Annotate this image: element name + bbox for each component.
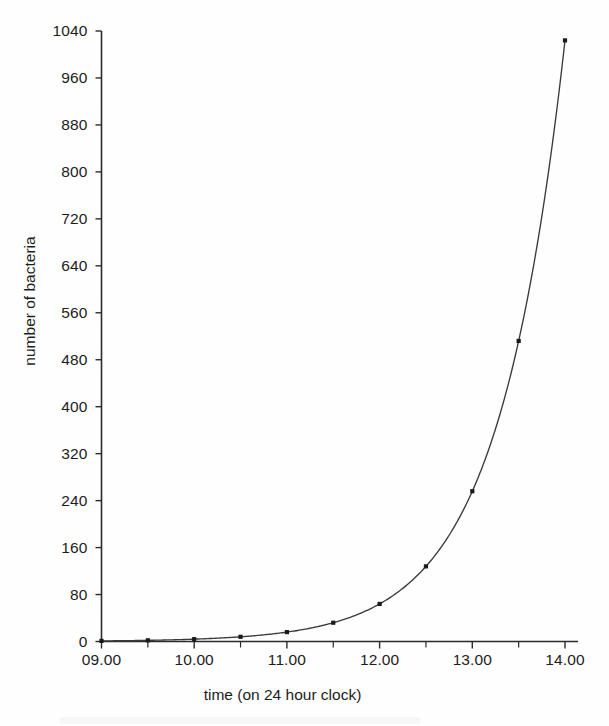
y-tick-label: 240 (0, 492, 88, 510)
data-point-marker (424, 564, 428, 568)
y-axis-title: number of bacteria (21, 211, 39, 391)
y-tick-label: 80 (0, 586, 88, 604)
y-tick-label: 800 (0, 163, 88, 181)
y-tick-label: 320 (0, 445, 88, 463)
plot-area (0, 0, 609, 726)
x-tick-label: 12.00 (335, 651, 425, 669)
y-tick-label: 640 (0, 257, 88, 275)
growth-curve (102, 40, 566, 641)
data-point-marker (192, 637, 196, 641)
y-tick-label: 480 (0, 351, 88, 369)
y-tick-label: 400 (0, 398, 88, 416)
data-point-markers (99, 38, 567, 643)
data-point-marker (563, 38, 567, 42)
data-point-marker (238, 635, 242, 639)
x-tick-label: 09.00 (57, 651, 147, 669)
y-tick-label: 160 (0, 539, 88, 557)
y-tick-label: 1040 (0, 22, 88, 40)
y-tick-label: 880 (0, 116, 88, 134)
data-point-marker (99, 639, 103, 643)
data-point-marker (517, 339, 521, 343)
y-tick-label: 0 (0, 633, 88, 651)
y-axis-ticks (96, 31, 102, 642)
x-axis-title: time (on 24 hour clock) (0, 686, 565, 704)
x-tick-label: 13.00 (427, 651, 517, 669)
x-tick-label: 11.00 (242, 651, 332, 669)
data-point-marker (285, 630, 289, 634)
y-tick-label: 720 (0, 210, 88, 228)
bacteria-growth-chart: 1040960880800720640560480400320240160800… (0, 0, 609, 726)
x-tick-label: 10.00 (149, 651, 239, 669)
data-point-marker (470, 489, 474, 493)
x-tick-label: 14.00 (520, 651, 609, 669)
y-tick-label: 960 (0, 69, 88, 87)
data-point-marker (331, 621, 335, 625)
data-point-marker (146, 638, 150, 642)
x-axis-ticks (102, 642, 566, 649)
y-tick-label: 560 (0, 304, 88, 322)
data-point-marker (378, 602, 382, 606)
